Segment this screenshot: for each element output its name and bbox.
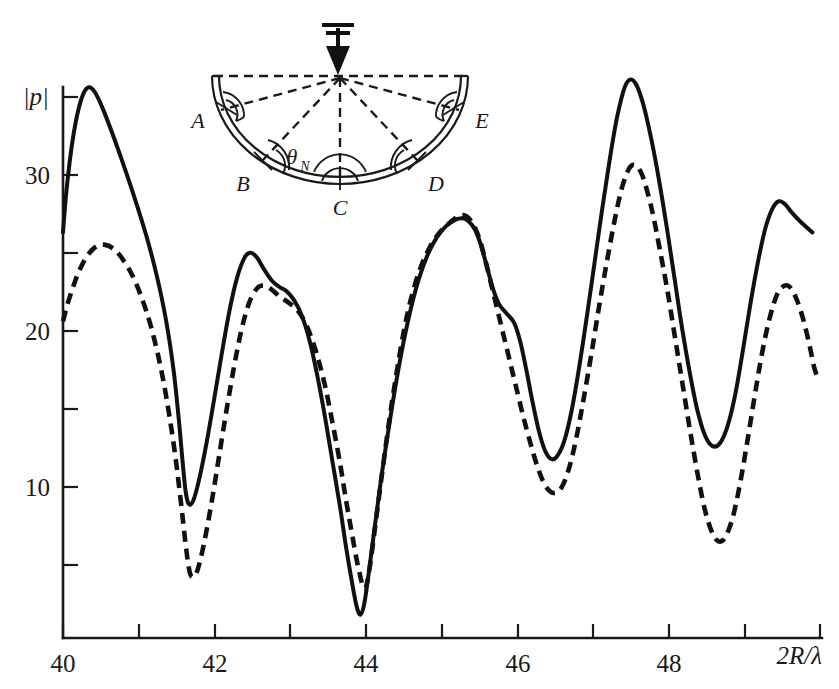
axes-group	[63, 87, 822, 638]
x-tick-label-40: 40	[51, 650, 76, 677]
ray-to-d	[340, 78, 418, 161]
inset-label-theta: θ	[287, 144, 298, 169]
inset-label-c: C	[333, 195, 348, 220]
incident-arrow-head	[326, 46, 350, 75]
inset-label-a: A	[189, 108, 205, 133]
angle-arc-a-inner	[226, 100, 237, 121]
x-tick-label-46: 46	[506, 650, 531, 677]
inset-diagram: A B C D E θ N	[189, 25, 489, 220]
x-tick-label-44: 44	[354, 650, 380, 677]
inset-label-d: D	[427, 171, 444, 196]
angle-arc-e-inner	[443, 100, 454, 121]
x-tick-label-48: 48	[657, 650, 682, 677]
inset-label-b: B	[236, 171, 249, 196]
x-ticks-group	[63, 624, 820, 638]
ray-to-a	[221, 78, 340, 110]
y-tick-label-20: 20	[25, 318, 50, 345]
ray-to-b	[262, 78, 340, 161]
ray-to-e	[340, 78, 459, 110]
x-axis-title: 2R/λ	[776, 642, 822, 669]
curve-solid-series	[63, 80, 812, 615]
chart-svg: 30 20 10 |p| 40 42 44 46 48 2R/λ	[0, 0, 839, 689]
figure-container: 30 20 10 |p| 40 42 44 46 48 2R/λ	[0, 0, 839, 689]
y-axis-title: |p|	[23, 83, 49, 110]
inset-label-theta-subscript: N	[299, 159, 310, 174]
y-tick-label-30: 30	[25, 162, 50, 189]
x-tick-label-42: 42	[203, 650, 228, 677]
inset-label-e: E	[474, 108, 489, 133]
y-tick-label-10: 10	[25, 474, 50, 501]
